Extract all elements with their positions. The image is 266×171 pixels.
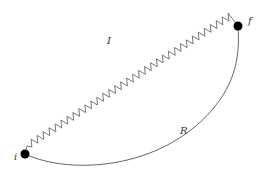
edge-I-zigzag: [25, 13, 238, 152]
edge-R-label: R: [179, 125, 188, 136]
vertex-i-label: i: [14, 151, 17, 162]
edge-I-label: I: [106, 35, 112, 46]
edge-R-curve: [25, 26, 238, 165]
vertex-i: [21, 150, 30, 159]
vertex-f: [234, 22, 243, 31]
vertex-f-label: f: [247, 15, 254, 26]
diagram-canvas: i f I R: [0, 0, 266, 171]
